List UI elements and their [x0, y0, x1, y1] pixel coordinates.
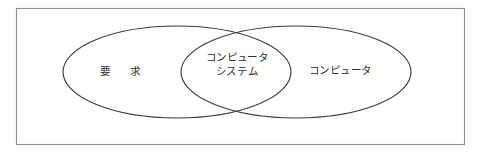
left-set-label: 要 求: [80, 64, 160, 78]
intersection-label-line1: コンピュータ: [206, 51, 268, 63]
venn-diagram-figure: 要 求 コンピュータシステム コンピュータ: [0, 0, 478, 154]
intersection-label: コンピュータシステム: [187, 50, 287, 78]
right-set-label: コンピュータ: [300, 63, 380, 77]
intersection-label-line2: システム: [187, 64, 287, 78]
